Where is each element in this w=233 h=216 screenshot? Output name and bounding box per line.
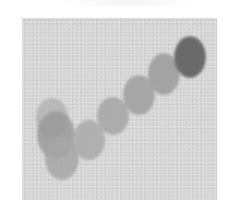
image-panel xyxy=(22,18,217,200)
blob-dark-end xyxy=(174,36,206,78)
top-edge-residue xyxy=(60,0,200,6)
